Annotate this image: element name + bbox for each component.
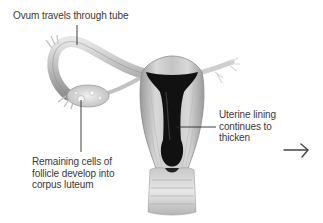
right-fallopian-tube (198, 58, 240, 83)
label-corpus-luteum: Remaining cells of follicle develop into… (32, 156, 114, 191)
cervix (148, 168, 196, 215)
right-arrow-icon[interactable] (284, 144, 308, 157)
label-ovum-travels: Ovum travels through tube (13, 10, 128, 22)
uterus (140, 56, 204, 174)
label-uterine-lining: Uterine lining continues to thicken (219, 109, 276, 144)
left-ovary (67, 85, 109, 107)
diagram-canvas: Ovum travels through tube Uterine lining… (0, 0, 323, 223)
